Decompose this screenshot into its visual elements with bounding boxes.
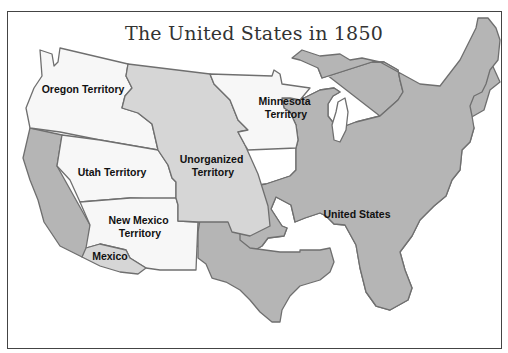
map-canvas: Oregon Territory Minnesota Territory Uta… [0,0,508,353]
label-minnesota: Minnesota Territory [259,95,314,120]
label-oregon: Oregon Territory [42,83,125,95]
label-mexico: Mexico [92,250,128,262]
label-utah: Utah Territory [78,166,147,178]
label-united-states: United States [323,208,390,220]
